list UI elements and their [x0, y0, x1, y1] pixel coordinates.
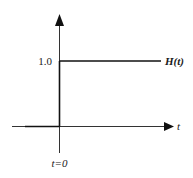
x-axis-arrowhead [164, 122, 174, 131]
y-axis-arrowhead [55, 14, 64, 26]
step-function-diagram: 1.0 H(t) t t=0 [0, 0, 193, 178]
function-label: H(t) [164, 55, 184, 68]
y-level-label: 1.0 [38, 55, 52, 67]
origin-label: t=0 [52, 157, 68, 169]
x-axis-label: t [177, 120, 181, 132]
